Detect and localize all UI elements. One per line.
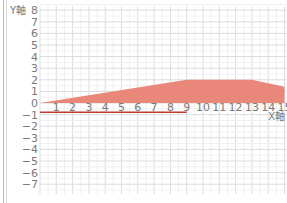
x-tick-label: 2 [69, 101, 76, 114]
x-tick-label: 9 [183, 101, 190, 114]
x-tick-label: 3 [85, 101, 92, 114]
chart: 876543210−1−2−3−4−5−6−712345678910111213… [0, 0, 287, 203]
x-tick-label: 4 [102, 101, 109, 114]
x-tick-label: 8 [167, 101, 174, 114]
x-tick-label: 10 [196, 101, 210, 114]
x-tick-label: 1 [53, 101, 60, 114]
x-axis-label: X軸 [268, 110, 285, 122]
x-tick-label: 6 [134, 101, 141, 114]
x-tick-label: 12 [229, 101, 243, 114]
x-tick-label: 11 [212, 101, 226, 114]
x-tick-label: 13 [245, 101, 259, 114]
x-tick-label: 5 [118, 101, 125, 114]
x-tick-label: 7 [151, 101, 158, 114]
y-axis-label: Y軸 [9, 4, 26, 16]
y-tick-label: −7 [22, 178, 38, 191]
